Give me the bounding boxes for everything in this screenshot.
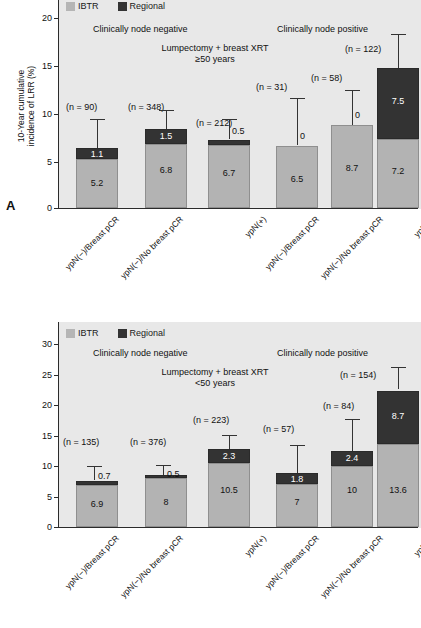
bar-b-6[interactable]: 8.7 13.6 [377, 391, 419, 527]
bar-a-5[interactable]: 8.7 [331, 125, 373, 208]
error-cap-b-5 [345, 419, 360, 420]
error-cap-a-6 [391, 34, 406, 35]
panel-title-line1-a: Lumpectomy + breast XRT [161, 43, 268, 53]
panel-b: B 10-Year cumulative incidence of LRR (%… [0, 314, 421, 628]
error-bar-b-4 [297, 445, 298, 474]
legend-item-ibtr-a: IBTR [66, 1, 99, 11]
legend-a: IBTR Regional [66, 1, 165, 11]
n-label-a-1: (n = 90) [66, 102, 97, 112]
y-tick-label-0-b: 0 [30, 523, 52, 532]
legend-label-ibtr: IBTR [78, 1, 99, 11]
panel-title-line2-b: <50 years [195, 378, 235, 388]
bar-a-6[interactable]: 7.5 7.2 [377, 68, 419, 208]
legend-item-regional-b: Regional [118, 328, 166, 338]
legend-item-regional-a: Regional [118, 1, 166, 11]
error-bar-b-6 [398, 367, 399, 389]
error-bar-a-3 [229, 119, 230, 139]
y-tick-label-5-a: 5 [30, 158, 52, 167]
legend-swatch-regional-icon-b [118, 329, 127, 338]
bar-a-5-regional-value: 0 [355, 110, 360, 120]
bar-a-2[interactable]: 1.5 6.8 [145, 129, 187, 208]
error-cap-b-6 [391, 367, 406, 368]
bar-b-2[interactable]: 8 [145, 475, 187, 527]
n-label-b-4: (n = 57) [263, 424, 294, 434]
legend-label-regional: Regional [130, 1, 166, 11]
error-cap-b-1 [87, 466, 102, 467]
bar-b-3-ibtr-segment [208, 463, 250, 527]
error-bar-b-1 [94, 466, 95, 480]
bar-a-3-ibtr-value: 6.7 [208, 168, 250, 178]
x-tick-label-a-3: ypN(+) [169, 214, 268, 313]
bar-a-3[interactable]: 6.7 [208, 140, 250, 208]
bar-a-2-ibtr-segment [145, 144, 187, 208]
y-tick-label-20-b: 20 [30, 401, 52, 410]
n-label-b-2: (n = 376) [130, 437, 166, 447]
x-axis-line-a [58, 208, 418, 209]
bar-b-5[interactable]: 2.4 10 [331, 451, 373, 527]
panel-a: A 10-Year cumulative incidence of LRR (%… [0, 0, 421, 314]
error-bar-b-3 [229, 435, 230, 449]
bar-a-1[interactable]: 1.1 5.2 [76, 148, 118, 208]
panel-letter-a: A [6, 198, 15, 213]
error-bar-a-6 [398, 34, 399, 69]
group-title-node-negative-a: Clinically node negative [93, 24, 188, 34]
n-label-a-5: (n = 58) [311, 73, 342, 83]
legend-item-ibtr-b: IBTR [66, 328, 99, 338]
bar-b-1[interactable]: 6.9 [76, 481, 118, 527]
bar-a-2-regional-value: 1.5 [145, 131, 187, 141]
error-cap-a-2 [159, 110, 174, 111]
x-tick-label-b-3: ypN(+) [169, 533, 268, 628]
y-tick-label-15-a: 15 [30, 62, 52, 71]
error-cap-b-2 [156, 465, 171, 466]
n-label-b-5: (n = 84) [323, 401, 354, 411]
bar-a-6-ibtr-value: 7.2 [377, 166, 419, 176]
bar-a-2-ibtr-value: 6.8 [145, 165, 187, 175]
group-title-node-positive-a: Clinically node positive [277, 24, 368, 34]
bar-b-3-ibtr-value: 10.5 [208, 485, 250, 495]
error-cap-a-5 [345, 90, 360, 91]
y-axis-title-line2: incidence of LRR (%) [26, 66, 36, 146]
error-bar-a-4 [297, 98, 298, 145]
y-tick-label-25-b: 25 [30, 371, 52, 380]
bar-b-2-regional-value: 0.5 [167, 469, 180, 479]
bar-a-1-regional-value: 1.1 [76, 149, 118, 159]
y-tick-label-30-b: 30 [30, 340, 52, 349]
panel-title-line1-b: Lumpectomy + breast XRT [161, 367, 268, 377]
bar-b-1-ibtr-value: 6.9 [76, 499, 118, 509]
panel-title-a: Lumpectomy + breast XRT ≥50 years [125, 43, 305, 65]
error-cap-a-4 [290, 98, 305, 99]
bar-a-4-ibtr-value: 6.5 [276, 174, 318, 184]
bar-b-4-regional-value: 1.8 [276, 474, 318, 484]
n-label-b-1: (n = 135) [63, 437, 99, 447]
y-axis-title-line1: 10-Year cumulative [16, 70, 26, 142]
n-label-a-6: (n = 122) [345, 44, 381, 54]
y-tick-label-20-a: 20 [30, 14, 52, 23]
error-bar-b-2 [163, 465, 164, 475]
bar-b-3[interactable]: 2.3 10.5 [208, 449, 250, 527]
x-tick-label-b-6: ypN(+) [338, 533, 421, 628]
n-label-b-3: (n = 223) [193, 415, 229, 425]
error-cap-b-3 [222, 435, 237, 436]
bar-b-2-ibtr-value: 8 [145, 497, 187, 507]
legend-swatch-regional-icon [118, 2, 127, 11]
bar-b-4[interactable]: 1.8 7 [276, 473, 318, 527]
error-bar-a-5 [352, 90, 353, 125]
y-axis-title-a: 10-Year cumulative incidence of LRR (%) [16, 16, 36, 196]
bar-b-5-regional-value: 2.4 [331, 453, 373, 463]
bar-a-4-regional-value: 0 [300, 131, 305, 141]
x-axis-line-b [58, 527, 418, 528]
error-cap-a-3 [222, 119, 237, 120]
y-tick-label-10-a: 10 [30, 110, 52, 119]
bar-b-5-ibtr-value: 10 [331, 485, 373, 495]
legend-b: IBTR Regional [66, 328, 165, 338]
y-tick-label-5-b: 5 [30, 493, 52, 502]
group-title-node-positive-b: Clinically node positive [277, 348, 368, 358]
group-title-node-negative-b: Clinically node negative [93, 348, 188, 358]
bar-b-5-ibtr-segment [331, 466, 373, 527]
n-label-b-6: (n = 154) [340, 370, 376, 380]
y-tick-label-0-a: 0 [30, 204, 52, 213]
bar-a-3-regional-value: 0.5 [232, 126, 245, 136]
bar-a-4[interactable]: 6.5 [276, 146, 318, 208]
y-tick-label-10-b: 10 [30, 462, 52, 471]
bar-b-4-ibtr-value: 7 [276, 497, 318, 507]
